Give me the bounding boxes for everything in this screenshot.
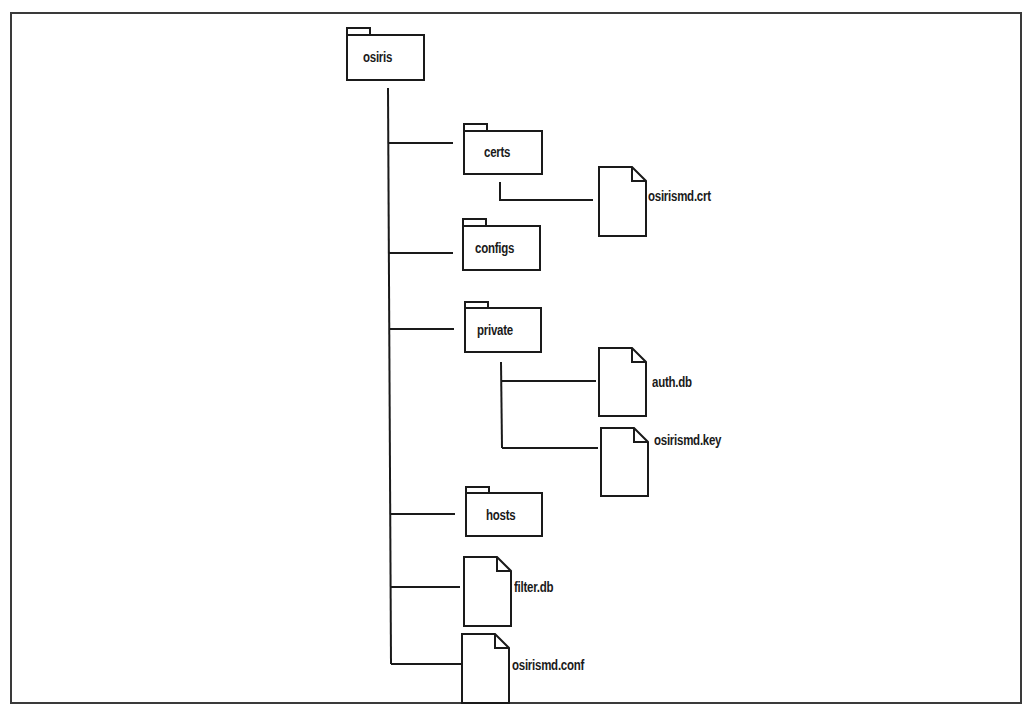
directory-tree-diagram: [0, 0, 1033, 714]
file-icon-osirismd-crt: [599, 167, 646, 236]
file-label-filter-db: filter.db: [514, 580, 553, 594]
file-label-osirismd-conf: osirismd.conf: [512, 658, 584, 672]
folder-label-certs: certs: [484, 145, 510, 159]
file-label-auth-db: auth.db: [652, 375, 692, 389]
file-icon-osirismd-conf: [462, 634, 509, 703]
file-icon-osirismd-key: [601, 428, 648, 496]
connector-crt: [500, 182, 593, 200]
file-icon-filter-db: [464, 557, 511, 626]
connector-private-trunk: [501, 362, 502, 448]
file-icon-auth-db: [599, 348, 646, 416]
folder-label-hosts: hosts: [486, 508, 515, 522]
folder-label-private: private: [477, 323, 513, 337]
folder-label-configs: configs: [475, 241, 514, 255]
trunk-connector: [388, 88, 391, 664]
folder-label-osiris: osiris: [363, 50, 392, 64]
file-label-osirismd-crt: osirismd.crt: [648, 189, 711, 203]
file-label-osirismd-key: osirismd.key: [654, 433, 721, 447]
